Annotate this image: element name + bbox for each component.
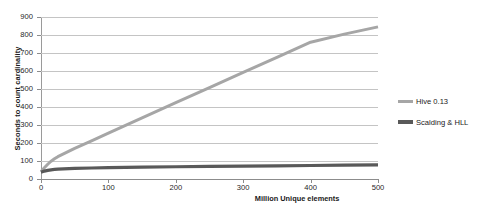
y-tick-label: 900 <box>3 13 33 21</box>
x-tick-label: 0 <box>21 183 61 192</box>
legend-swatch-icon <box>398 100 413 103</box>
y-tick-label: 200 <box>3 139 33 147</box>
y-axis-title: Seconds to count cardinality <box>13 19 22 179</box>
legend-item-hive[interactable]: Hive 0.13 <box>398 93 478 109</box>
y-tick-label: 400 <box>3 103 33 111</box>
y-tick-label: 100 <box>3 157 33 165</box>
y-tick-label: 600 <box>3 67 33 75</box>
x-tick-mark <box>41 180 42 183</box>
series-line <box>41 27 378 172</box>
y-tick-label: 700 <box>3 49 33 57</box>
y-tick-label: 800 <box>3 31 33 39</box>
y-tick-label: 300 <box>3 121 33 129</box>
x-tick-mark <box>378 180 379 183</box>
x-tick-mark <box>108 180 109 183</box>
legend-label: Hive 0.13 <box>416 97 448 106</box>
x-tick-label: 300 <box>223 183 263 192</box>
series-line <box>41 165 378 172</box>
chart-legend: Hive 0.13 Scalding & HLL <box>398 93 478 135</box>
x-tick-mark <box>176 180 177 183</box>
legend-item-scalding[interactable]: Scalding & HLL <box>398 114 478 130</box>
x-axis-title: Million Unique elements <box>217 194 377 203</box>
x-tick-label: 200 <box>156 183 196 192</box>
x-tick-label: 100 <box>88 183 128 192</box>
y-tick-label: 0 <box>3 175 33 183</box>
x-tick-mark <box>311 180 312 183</box>
x-tick-label: 500 <box>358 183 398 192</box>
legend-label: Scalding & HLL <box>416 118 468 127</box>
x-tick-mark <box>243 180 244 183</box>
series-lines <box>41 17 378 180</box>
x-tick-label: 400 <box>291 183 331 192</box>
y-tick-label: 500 <box>3 85 33 93</box>
legend-swatch-icon <box>398 120 413 124</box>
line-chart: Seconds to count cardinality 01002003004… <box>0 0 481 217</box>
